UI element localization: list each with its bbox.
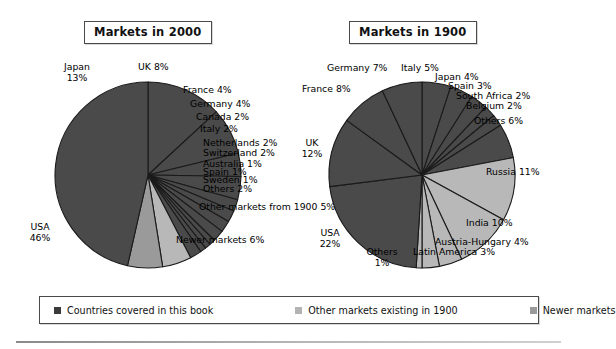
legend-item-other-markets-1900: Other markets existing in 1900 [295,305,457,316]
label-pct: 2% [223,123,238,134]
label-pct: 4% [514,236,529,247]
label-pct: 4% [236,98,251,109]
legend-swatch-mid-icon [530,307,537,314]
label-italy-1900: Italy 5% [401,63,439,74]
label-usa-1900: USA 22% [312,228,348,249]
label-text: Germany [327,62,370,73]
label-pct: 2% [237,183,252,194]
label-text: UK [138,61,151,72]
label-usa-2000: USA 46% [20,222,60,243]
label-text: Latin America [413,246,477,257]
label-text: Others [203,183,234,194]
label-text: Canada [196,111,231,122]
label-russia-1900: Russia 11% [486,167,540,178]
label-text: USA [30,221,49,232]
label-text: Italy [200,123,220,134]
label-pct: 1% [247,158,262,169]
label-text: Switzerland [203,147,257,158]
label-pct: 13% [67,72,88,83]
label-germany-1900: Germany 7% [327,63,387,74]
label-pct: 6% [508,115,523,126]
label-text: France [183,84,214,95]
label-germany-2000: Germany 4% [190,99,250,110]
legend-label: Countries covered in this book [67,305,213,316]
label-text: Italy [401,62,421,73]
chart-legend: Countries covered in this book Other mar… [39,296,539,324]
pie-slice-usa [55,82,148,266]
label-pct: 6% [250,234,265,245]
label-text: Others [366,246,397,257]
label-pct: 2% [234,111,249,122]
label-pct: 8% [154,61,169,72]
label-text: Belgium [466,100,504,111]
label-text: USA [320,227,339,238]
label-pct: 4% [217,84,232,95]
label-canada-2000: Canada 2% [196,112,249,123]
legend-label: Newer markets [543,305,616,316]
label-belgium-1900: Belgium 2% [466,101,522,112]
label-pct: 3% [480,246,495,257]
legend-item-newer-markets: Newer markets [530,305,616,316]
label-pct: 2% [260,147,275,158]
label-uk-2000: UK 8% [138,62,169,73]
chart-title-markets-1900: Markets in 1900 [349,21,477,44]
label-text: France [302,83,333,94]
label-france-1900: France 8% [302,84,351,95]
label-others-2000: Others 2% [203,184,252,195]
label-pct: 2% [507,100,522,111]
label-latin-america-1900: Latin America 3% [413,247,495,258]
chart-title-markets-2000: Markets in 2000 [84,21,212,44]
label-pct: 11% [519,166,540,177]
label-italy-2000: Italy 2% [200,124,238,135]
label-pct: 22% [320,238,341,249]
label-text: India [466,217,489,228]
label-other-markets-from-1900-2000: Other markets from 1900 5% [199,202,289,213]
label-pct: 10% [492,217,513,228]
label-uk-1900: UK 12% [295,138,329,159]
legend-item-countries-covered: Countries covered in this book [54,305,213,316]
label-text: Russia [486,166,516,177]
label-newer-markets-2000: Newer markets 6% [176,235,264,246]
label-text: UK [306,137,319,148]
label-pct: 7% [373,62,388,73]
label-pct: 8% [336,83,351,94]
label-pct: 1% [375,257,390,268]
label-pct: 46% [30,232,51,243]
label-others-top-1900: Others 6% [474,116,523,127]
label-text: Japan [64,61,90,72]
legend-swatch-dark-icon [54,307,61,314]
label-others-bottom-1900: Others 1% [356,247,408,268]
label-text: Germany [190,98,233,109]
footer-rule [16,341,561,343]
legend-swatch-light-icon [295,307,302,314]
label-japan-2000: Japan 13% [50,62,104,83]
label-text: Newer markets [176,234,247,245]
label-pct: 12% [302,148,323,159]
label-india-1900: India 10% [466,218,512,229]
legend-label: Other markets existing in 1900 [308,305,457,316]
label-text: Others [474,115,505,126]
label-france-2000: France 4% [183,85,232,96]
label-switzerland-2000: Switzerland 2% [203,148,275,159]
